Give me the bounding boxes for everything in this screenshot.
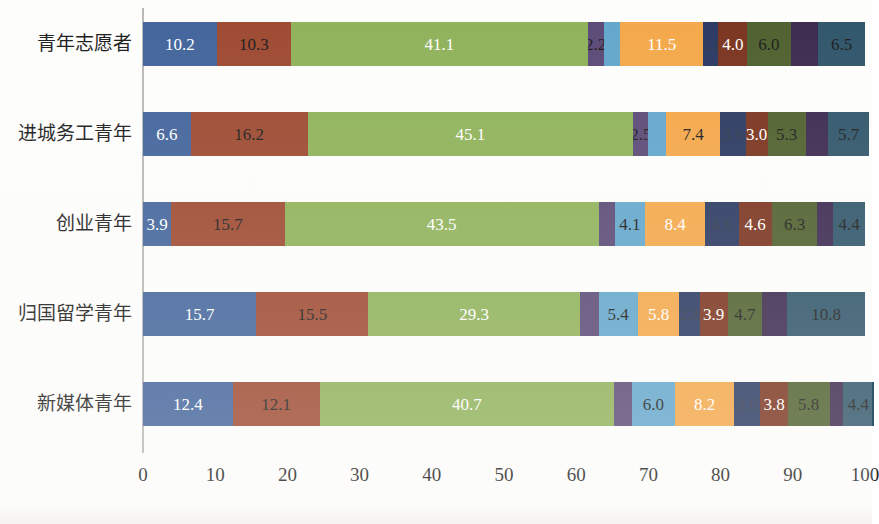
category-label: 创业青年 — [0, 214, 132, 233]
bar-segment[interactable]: 4.6 — [705, 202, 738, 246]
bar-row: 10.210.341.12.211.52.14.06.06.5 — [143, 22, 865, 66]
bar-segment[interactable]: 41.1 — [291, 22, 588, 66]
bar-value-label: 16.2 — [234, 126, 264, 143]
x-axis-tick-label: 100 — [851, 465, 879, 484]
bar-segment[interactable]: 45.1 — [308, 112, 634, 156]
bar-segment[interactable]: 10.2 — [143, 22, 217, 66]
bar-segment[interactable] — [830, 382, 843, 426]
x-axis-tick-label: 90 — [783, 465, 802, 484]
bar-segment[interactable]: 3.8 — [760, 382, 787, 426]
bar-segment[interactable]: 12.4 — [143, 382, 233, 426]
bar-segment[interactable]: 4.1 — [615, 202, 645, 246]
bar-row: 15.715.529.35.45.82.83.94.710.8 — [143, 292, 865, 336]
bar-segment[interactable]: 4.4 — [843, 382, 875, 426]
bar-segment[interactable]: 16.2 — [191, 112, 308, 156]
bar-segment[interactable]: 15.5 — [256, 292, 368, 336]
bar-segment[interactable]: 8.4 — [645, 202, 706, 246]
bar-value-label: 2.8 — [679, 306, 699, 323]
bar-value-label: 5.8 — [648, 306, 669, 323]
bar-segment[interactable]: 2.8 — [679, 292, 699, 336]
bar-segment[interactable]: 4.4 — [833, 202, 865, 246]
bar-segment[interactable]: 6.6 — [143, 112, 191, 156]
bar-segment[interactable]: 10.3 — [217, 22, 291, 66]
bar-segment[interactable]: 3.9 — [700, 292, 728, 336]
bar-value-label: 5.4 — [607, 306, 628, 323]
x-axis: 0102030405060708090100 — [143, 453, 865, 493]
bar-segment[interactable]: 8.2 — [675, 382, 734, 426]
bar-segment[interactable]: 5.8 — [638, 292, 680, 336]
bar-segment[interactable] — [791, 22, 818, 66]
bar-segment[interactable]: 40.7 — [320, 382, 614, 426]
bar-value-label: 4.4 — [838, 216, 859, 233]
bar-segment[interactable]: 6.0 — [747, 22, 790, 66]
bar-segment[interactable]: 12.1 — [233, 382, 320, 426]
bar-value-label: 5.7 — [838, 126, 859, 143]
bar-value-label: 3.8 — [763, 396, 784, 413]
bar-segment[interactable]: 6.5 — [818, 22, 865, 66]
bar-segment[interactable]: 3.0 — [746, 112, 768, 156]
x-axis-tick-label: 50 — [495, 465, 514, 484]
x-axis-tick-label: 0 — [138, 465, 148, 484]
bar-segment[interactable]: 7.4 — [666, 112, 719, 156]
bar-segment[interactable]: 10.8 — [787, 292, 865, 336]
bar-value-label: 3.9 — [703, 306, 724, 323]
category-axis-labels: 青年志愿者进城务工青年创业青年归国留学青年新媒体青年 — [0, 8, 138, 453]
bar-value-label: 7.4 — [683, 126, 704, 143]
bar-segment[interactable]: 15.7 — [143, 292, 256, 336]
category-label: 进城务工青年 — [0, 124, 132, 143]
bar-segment[interactable]: 4.6 — [739, 202, 772, 246]
bar-segment[interactable] — [580, 292, 599, 336]
bar-segment[interactable]: 3.6 — [720, 112, 746, 156]
bar-segment[interactable]: 15.7 — [171, 202, 284, 246]
bar-segment[interactable]: 5.7 — [828, 112, 869, 156]
bar-segment[interactable]: 3.6 — [734, 382, 760, 426]
bar-segment[interactable] — [817, 202, 833, 246]
bar-row: 6.616.245.12.57.43.63.05.35.7 — [143, 112, 865, 156]
bar-segment[interactable]: 5.8 — [788, 382, 830, 426]
bar-segment[interactable]: 6.0 — [632, 382, 675, 426]
bar-segment[interactable]: 2.1 — [703, 22, 718, 66]
plot-area: 10.210.341.12.211.52.14.06.06.56.616.245… — [143, 8, 865, 453]
bar-segment[interactable]: 5.4 — [599, 292, 638, 336]
bar-segment[interactable]: 3.9 — [143, 202, 171, 246]
bar-value-label: 43.5 — [427, 216, 457, 233]
bar-value-label: 4.6 — [745, 216, 766, 233]
bar-value-label: 6.6 — [156, 126, 177, 143]
bar-segment[interactable] — [614, 382, 632, 426]
bar-value-label: 4.1 — [619, 216, 640, 233]
bar-value-label: 10.3 — [239, 36, 269, 53]
bar-value-label: 15.7 — [213, 216, 243, 233]
bar-segment[interactable] — [648, 112, 666, 156]
bar-segment[interactable]: 2.2 — [588, 22, 604, 66]
bar-value-label: 40.7 — [452, 396, 482, 413]
bar-segment[interactable]: 6.3 — [772, 202, 817, 246]
bar-value-label: 15.7 — [185, 306, 215, 323]
bar-segment[interactable]: 43.5 — [285, 202, 599, 246]
bar-value-label: 4.0 — [722, 36, 743, 53]
bar-segment[interactable] — [806, 112, 828, 156]
bar-segment[interactable]: 5.3 — [768, 112, 806, 156]
bar-segment[interactable]: 11.5 — [620, 22, 703, 66]
bar-segment[interactable]: 2.5 — [633, 112, 648, 156]
x-axis-tick-label: 80 — [711, 465, 730, 484]
bar-segment[interactable] — [599, 202, 616, 246]
x-axis-tick-label: 20 — [278, 465, 297, 484]
bar-segment[interactable]: 29.3 — [368, 292, 580, 336]
x-axis-tick-label: 70 — [639, 465, 658, 484]
bar-value-label: 6.0 — [758, 36, 779, 53]
bar-row: 12.412.140.76.08.23.63.85.84.4 — [143, 382, 865, 426]
bar-value-label: 15.5 — [297, 306, 327, 323]
bar-segment[interactable]: 4.7 — [728, 292, 762, 336]
bar-value-label: 3.9 — [146, 216, 167, 233]
category-label: 新媒体青年 — [0, 394, 132, 413]
bar-segment[interactable] — [762, 292, 787, 336]
bar-value-label: 12.4 — [173, 396, 203, 413]
bar-value-label: 29.3 — [459, 306, 489, 323]
bar-value-label: 2.5 — [633, 126, 648, 143]
bar-segment[interactable] — [604, 22, 621, 66]
bar-segment[interactable]: 4.0 — [718, 22, 747, 66]
bar-row: 3.915.743.54.18.44.64.66.34.4 — [143, 202, 865, 246]
bar-value-label: 45.1 — [456, 126, 486, 143]
bar-value-label: 6.5 — [831, 36, 852, 53]
